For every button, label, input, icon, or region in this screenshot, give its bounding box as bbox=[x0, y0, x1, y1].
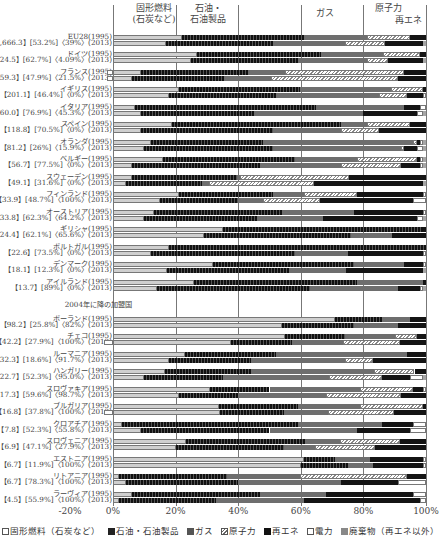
stacked-bar bbox=[0, 146, 437, 151]
segment-nuclear bbox=[360, 387, 413, 392]
segment-solid bbox=[113, 227, 223, 232]
segment-solid bbox=[113, 286, 157, 291]
segment-solid bbox=[113, 251, 151, 256]
segment-renew bbox=[357, 428, 410, 433]
segment-solid bbox=[113, 352, 185, 357]
segment-elec bbox=[423, 457, 426, 462]
segment-oil bbox=[165, 369, 251, 374]
stacked-bar bbox=[0, 428, 437, 433]
segment-gas bbox=[248, 70, 286, 75]
segment-renew bbox=[348, 251, 423, 256]
segment-oil bbox=[144, 146, 272, 151]
segment-solid bbox=[113, 105, 135, 110]
stacked-bar bbox=[0, 111, 437, 116]
segment-solid bbox=[113, 52, 197, 57]
segment-oil bbox=[151, 140, 264, 145]
segment-solid bbox=[113, 245, 169, 250]
segment-oil bbox=[141, 70, 247, 75]
segment-oil bbox=[285, 334, 344, 339]
segment-nuclear bbox=[379, 93, 407, 98]
stacked-bar bbox=[0, 340, 437, 345]
segment-nuclear bbox=[285, 70, 404, 75]
segment-solid bbox=[113, 404, 219, 409]
segment-oil bbox=[141, 111, 254, 116]
legend-item: 電力 bbox=[307, 526, 333, 536]
segment-nuclear bbox=[395, 334, 417, 339]
segment-gas bbox=[310, 286, 398, 291]
segment-nuclear bbox=[328, 410, 394, 415]
segment-gas bbox=[321, 52, 383, 57]
stacked-bar bbox=[0, 163, 437, 168]
stacked-bar bbox=[0, 41, 437, 46]
segment-waste bbox=[423, 41, 426, 46]
segment-nuclear bbox=[340, 439, 401, 444]
segment-gas bbox=[284, 410, 328, 415]
stacked-bar bbox=[0, 58, 437, 63]
segment-renew bbox=[379, 128, 426, 133]
segment-oil bbox=[144, 375, 222, 380]
segment-waste bbox=[423, 58, 426, 63]
segment-gas bbox=[260, 492, 326, 497]
legend-swatch-icon bbox=[307, 528, 314, 535]
legend-item: 固形燃料（石炭など） bbox=[2, 526, 100, 536]
segment-renew bbox=[354, 210, 423, 215]
segment-solid bbox=[113, 422, 122, 427]
stacked-bar bbox=[0, 375, 437, 380]
segment-gas bbox=[357, 280, 423, 285]
segment-waste bbox=[423, 146, 426, 151]
segment-solid bbox=[113, 58, 191, 63]
segment-renew bbox=[400, 439, 426, 444]
segment-oil bbox=[304, 457, 335, 462]
segment-solid bbox=[113, 445, 176, 450]
segment-solid bbox=[113, 198, 160, 203]
segment-gas bbox=[251, 358, 345, 363]
segment-nuclear bbox=[357, 157, 416, 162]
legend-swatch-icon bbox=[108, 528, 115, 535]
segment-solid bbox=[113, 323, 282, 328]
segment-gas bbox=[351, 233, 392, 238]
segment-oil bbox=[141, 428, 269, 433]
segment-renew bbox=[388, 58, 422, 63]
segment-gas bbox=[382, 317, 410, 322]
segment-elec bbox=[420, 105, 426, 110]
segment-elec bbox=[423, 387, 426, 392]
segment-oil bbox=[186, 439, 304, 444]
segment-renew bbox=[404, 70, 426, 75]
segment-oil bbox=[179, 393, 238, 398]
segment-nuclear bbox=[360, 404, 423, 409]
segment-elec bbox=[423, 251, 426, 256]
segment-solid bbox=[113, 428, 141, 433]
segment-oil bbox=[282, 323, 354, 328]
segment-oil bbox=[132, 163, 260, 168]
segment-renew bbox=[398, 286, 420, 291]
segment-renew bbox=[407, 352, 426, 357]
segment-solid bbox=[113, 262, 213, 267]
segment-solid bbox=[113, 175, 132, 180]
segment-oil bbox=[132, 492, 260, 497]
segment-oil bbox=[176, 445, 283, 450]
segment-oil bbox=[182, 35, 304, 40]
segment-gas bbox=[273, 146, 401, 151]
segment-gas bbox=[238, 393, 326, 398]
segment-gas bbox=[292, 340, 343, 345]
stacked-bar bbox=[0, 498, 437, 503]
segment-nuclear bbox=[341, 128, 379, 133]
segment-solid bbox=[113, 181, 126, 186]
segment-renew bbox=[423, 227, 426, 232]
segment-oil bbox=[163, 157, 294, 162]
segment-oil bbox=[151, 251, 295, 256]
segment-solid bbox=[113, 216, 144, 221]
legend-label: 再エネ bbox=[272, 526, 299, 536]
segment-solid bbox=[113, 111, 141, 116]
segment-oil bbox=[210, 387, 269, 392]
segment-elec bbox=[413, 492, 426, 497]
stacked-bar bbox=[0, 251, 437, 256]
segment-solid bbox=[113, 340, 231, 345]
segment-renew bbox=[363, 111, 416, 116]
segment-oil bbox=[219, 404, 297, 409]
segment-renew bbox=[401, 393, 426, 398]
segment-oil bbox=[172, 122, 341, 127]
segment-waste bbox=[423, 286, 426, 291]
stacked-bar bbox=[0, 181, 437, 186]
segment-nuclear bbox=[326, 393, 401, 398]
